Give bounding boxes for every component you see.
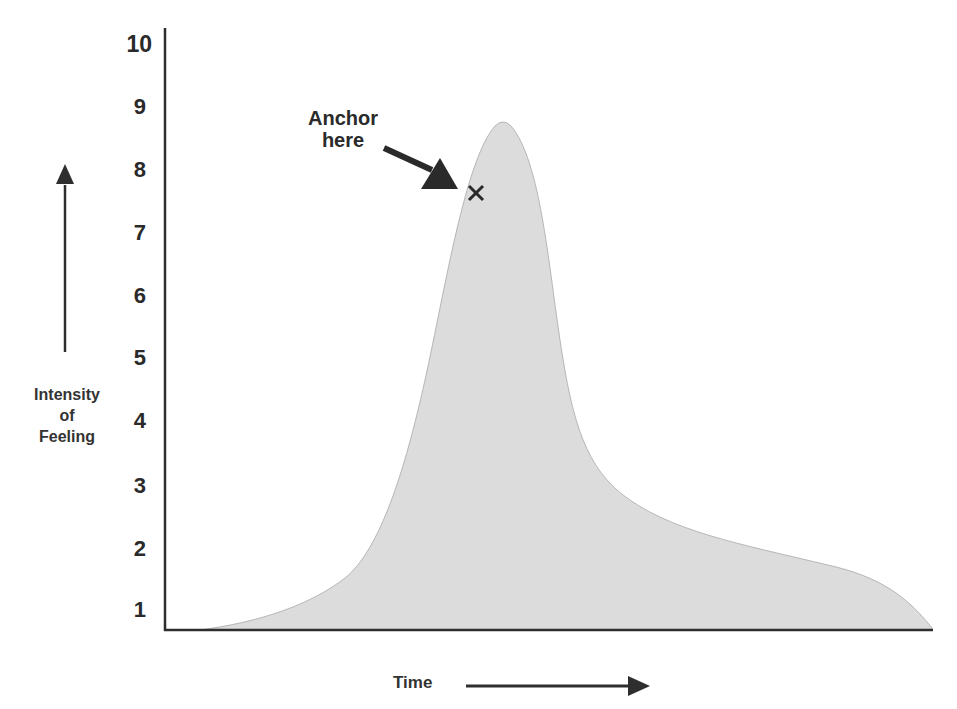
intensity-curve-area xyxy=(200,122,932,630)
y-tick-8: 8 xyxy=(106,159,146,181)
y-tick-2: 2 xyxy=(106,538,146,560)
anchor-annotation-label: Anchor here xyxy=(288,107,398,151)
y-axis-label: Intensity of Feeling xyxy=(14,384,120,447)
y-tick-1: 1 xyxy=(106,599,146,621)
y-tick-3: 3 xyxy=(106,475,146,497)
y-tick-7: 7 xyxy=(106,222,146,244)
y-tick-10: 10 xyxy=(112,33,152,56)
y-axis-label-line2: of xyxy=(14,405,120,426)
anchor-pointer-arrow-icon xyxy=(384,148,458,189)
x-axis-label: Time xyxy=(393,673,432,693)
y-tick-6: 6 xyxy=(106,285,146,307)
time-right-arrow-icon xyxy=(466,676,650,696)
intensity-up-arrow-icon xyxy=(56,164,74,352)
y-tick-5: 5 xyxy=(106,347,146,369)
anchor-label-line1: Anchor xyxy=(288,107,398,129)
y-axis-label-line1: Intensity xyxy=(14,384,120,405)
anchor-label-line2: here xyxy=(288,129,398,151)
y-tick-9: 9 xyxy=(106,96,146,118)
y-axis-label-line3: Feeling xyxy=(14,426,120,447)
